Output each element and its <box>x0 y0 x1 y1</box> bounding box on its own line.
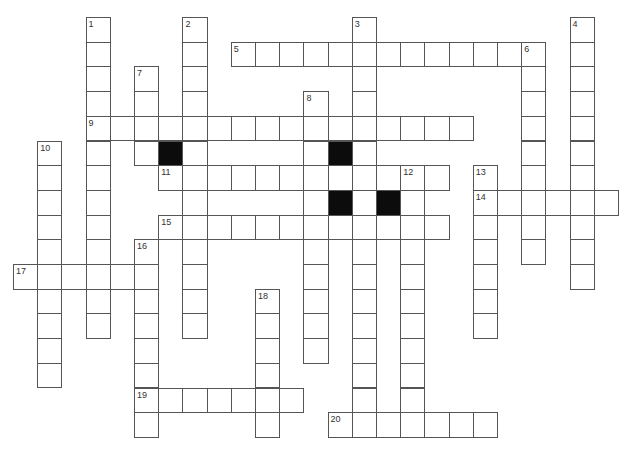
letter-input[interactable] <box>183 142 206 166</box>
crossword-cell[interactable] <box>86 141 111 167</box>
letter-input[interactable] <box>353 166 376 190</box>
letter-input[interactable] <box>353 240 376 264</box>
crossword-cell[interactable] <box>255 116 280 142</box>
letter-input[interactable] <box>208 216 231 240</box>
letter-input[interactable] <box>474 413 497 437</box>
letter-input[interactable] <box>474 216 497 240</box>
letter-input[interactable] <box>135 339 158 363</box>
letter-input[interactable] <box>498 191 521 215</box>
crossword-cell[interactable]: 17 <box>13 264 38 290</box>
letter-input[interactable] <box>425 216 448 240</box>
letter-input[interactable] <box>498 43 521 67</box>
crossword-cell[interactable] <box>328 215 353 241</box>
letter-input[interactable] <box>38 142 61 166</box>
crossword-cell[interactable]: 4 <box>570 17 595 43</box>
letter-input[interactable] <box>304 117 327 141</box>
letter-input[interactable] <box>256 364 279 388</box>
crossword-cell[interactable]: 18 <box>255 289 280 315</box>
crossword-cell[interactable] <box>424 412 449 438</box>
letter-input[interactable] <box>450 117 473 141</box>
letter-input[interactable] <box>87 191 110 215</box>
letter-input[interactable] <box>232 166 255 190</box>
crossword-cell[interactable] <box>352 66 377 92</box>
crossword-cell[interactable] <box>473 264 498 290</box>
letter-input[interactable] <box>183 240 206 264</box>
crossword-cell[interactable] <box>86 190 111 216</box>
crossword-cell[interactable] <box>400 388 425 414</box>
crossword-cell[interactable] <box>352 116 377 142</box>
crossword-cell[interactable] <box>134 313 159 339</box>
crossword-cell[interactable] <box>352 42 377 68</box>
crossword-cell[interactable] <box>521 165 546 191</box>
letter-input[interactable] <box>208 389 231 413</box>
crossword-cell[interactable] <box>376 215 401 241</box>
crossword-cell[interactable] <box>521 239 546 265</box>
letter-input[interactable] <box>280 389 303 413</box>
crossword-cell[interactable] <box>182 313 207 339</box>
crossword-cell[interactable] <box>279 116 304 142</box>
crossword-cell[interactable] <box>182 141 207 167</box>
letter-input[interactable] <box>183 216 206 240</box>
crossword-cell[interactable] <box>400 215 425 241</box>
crossword-cell[interactable] <box>352 190 377 216</box>
letter-input[interactable] <box>87 290 110 314</box>
crossword-cell[interactable] <box>207 215 232 241</box>
letter-input[interactable] <box>87 216 110 240</box>
letter-input[interactable] <box>280 43 303 67</box>
letter-input[interactable] <box>522 240 545 264</box>
letter-input[interactable] <box>159 166 182 190</box>
crossword-cell[interactable] <box>570 66 595 92</box>
letter-input[interactable] <box>304 166 327 190</box>
letter-input[interactable] <box>135 314 158 338</box>
crossword-cell[interactable] <box>86 215 111 241</box>
crossword-cell[interactable] <box>86 239 111 265</box>
crossword-cell[interactable] <box>570 141 595 167</box>
letter-input[interactable] <box>183 265 206 289</box>
crossword-cell[interactable] <box>376 42 401 68</box>
letter-input[interactable] <box>183 67 206 91</box>
letter-input[interactable] <box>183 191 206 215</box>
crossword-cell[interactable] <box>570 165 595 191</box>
crossword-cell[interactable] <box>473 412 498 438</box>
letter-input[interactable] <box>353 18 376 42</box>
letter-input[interactable] <box>304 142 327 166</box>
crossword-cell[interactable]: 6 <box>521 42 546 68</box>
crossword-cell[interactable] <box>134 289 159 315</box>
crossword-cell[interactable]: 3 <box>352 17 377 43</box>
letter-input[interactable] <box>522 216 545 240</box>
crossword-cell[interactable] <box>37 363 62 389</box>
crossword-cell[interactable] <box>182 91 207 117</box>
crossword-cell[interactable] <box>182 66 207 92</box>
letter-input[interactable] <box>353 191 376 215</box>
crossword-cell[interactable] <box>207 165 232 191</box>
letter-input[interactable] <box>377 117 400 141</box>
letter-input[interactable] <box>401 364 424 388</box>
letter-input[interactable] <box>183 314 206 338</box>
crossword-cell[interactable] <box>352 141 377 167</box>
crossword-cell[interactable] <box>37 313 62 339</box>
crossword-cell[interactable] <box>570 215 595 241</box>
letter-input[interactable] <box>280 117 303 141</box>
letter-input[interactable] <box>38 290 61 314</box>
crossword-cell[interactable] <box>521 66 546 92</box>
crossword-cell[interactable]: 20 <box>328 412 353 438</box>
crossword-cell[interactable] <box>328 42 353 68</box>
letter-input[interactable] <box>183 43 206 67</box>
letter-input[interactable] <box>87 166 110 190</box>
crossword-cell[interactable] <box>255 388 280 414</box>
letter-input[interactable] <box>353 117 376 141</box>
letter-input[interactable] <box>377 413 400 437</box>
letter-input[interactable] <box>353 339 376 363</box>
letter-input[interactable] <box>401 43 424 67</box>
crossword-cell[interactable] <box>255 313 280 339</box>
crossword-cell[interactable]: 8 <box>303 91 328 117</box>
crossword-cell[interactable] <box>182 215 207 241</box>
crossword-cell[interactable]: 12 <box>400 165 425 191</box>
letter-input[interactable] <box>135 265 158 289</box>
letter-input[interactable] <box>401 166 424 190</box>
letter-input[interactable] <box>474 290 497 314</box>
crossword-cell[interactable] <box>255 338 280 364</box>
crossword-cell[interactable] <box>37 289 62 315</box>
letter-input[interactable] <box>401 339 424 363</box>
letter-input[interactable] <box>87 43 110 67</box>
